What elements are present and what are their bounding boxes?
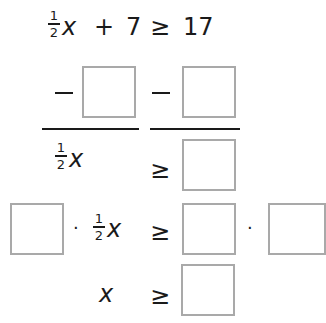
relation-geq: ≥: [150, 220, 170, 244]
answer-box-subtract-left[interactable]: [82, 66, 136, 118]
fraction-one-half: 1 2: [48, 9, 60, 39]
sum-line-left: [42, 128, 139, 130]
addend: 7: [126, 15, 141, 39]
fraction-one-half: 1 2: [93, 212, 105, 242]
relation-geq: ≥: [150, 284, 170, 308]
variable-x: x: [69, 147, 83, 171]
variable-x: x: [62, 15, 76, 39]
minus-sign-right: [152, 92, 170, 94]
rhs-value: 17: [183, 15, 214, 39]
minus-sign-left: [55, 92, 73, 94]
fraction-one-half: 1 2: [55, 141, 67, 171]
answer-box-result[interactable]: [182, 139, 236, 191]
dot-operator-right: ·: [247, 216, 253, 240]
plus-sign: +: [94, 15, 114, 39]
dot-operator-left: ·: [73, 216, 79, 240]
answer-box-multiply-rhs[interactable]: [182, 203, 236, 255]
variable-x: x: [99, 282, 113, 306]
answer-box-multiplier-left[interactable]: [10, 203, 64, 255]
fraction-denominator: 2: [55, 158, 67, 171]
relation-geq: ≥: [150, 158, 170, 182]
answer-box-final[interactable]: [181, 264, 235, 316]
sum-line-right: [150, 128, 240, 130]
relation-geq: ≥: [150, 15, 170, 39]
fraction-denominator: 2: [48, 26, 60, 39]
fraction-numerator: 1: [48, 9, 60, 22]
answer-box-multiplier-right[interactable]: [268, 203, 326, 255]
variable-x: x: [107, 217, 121, 241]
answer-box-subtract-right[interactable]: [182, 66, 236, 118]
fraction-numerator: 1: [55, 141, 67, 154]
fraction-numerator: 1: [93, 212, 105, 225]
fraction-denominator: 2: [93, 229, 105, 242]
